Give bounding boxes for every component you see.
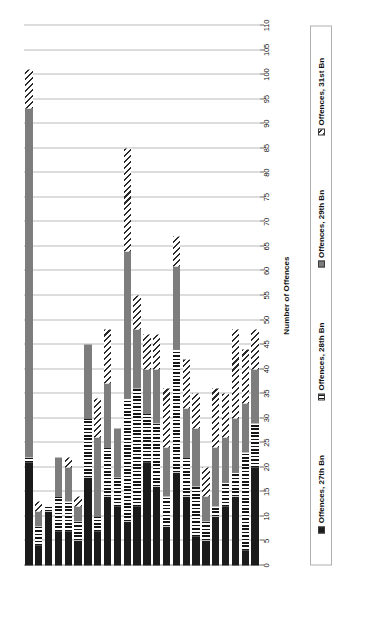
bar-segment [54,531,61,565]
category-axis-labels: Jan. 1917Feb. 1917Mar. 1917Apr. 1917May.… [24,0,260,509]
legend-item[interactable]: Offences, 27th Bn [316,455,325,533]
axis-tick-label: 25 [262,438,271,446]
bar-segment [44,511,51,565]
bar-segment [113,506,120,565]
value-axis-title: Number of Offences [282,25,291,565]
bar-segment [221,506,228,565]
axis-tick-label: 5 [262,538,271,542]
legend-label: Offences, 28th Bn [316,322,325,390]
legend-swatch-icon [317,128,324,135]
bar-segment [64,531,71,565]
axis-tick-label: 20 [262,463,271,471]
chart-legend: Offences, 27th BnOffences, 28th BnOffenc… [310,25,332,565]
bar-segment [94,516,101,531]
axis-tick-label: 95 [262,95,271,103]
axis-tick-label: 65 [262,242,271,250]
axis-tick-label: 90 [262,119,271,127]
bar-segment [94,531,101,565]
offences-stacked-bar-chart: Jan. 1917Feb. 1917Mar. 1917Apr. 1917May.… [18,0,348,621]
bar-segment [35,526,42,546]
axis-tick-label: 80 [262,168,271,176]
bar-segment [241,550,248,565]
axis-tick-label: 50 [262,316,271,324]
legend-swatch-icon [317,260,324,267]
chart-page: Jan. 1917Feb. 1917Mar. 1917Apr. 1917May.… [0,0,365,621]
axis-tick-label: 110 [262,19,271,31]
legend-label: Offences, 27th Bn [316,455,325,523]
bar-segment [133,506,140,565]
bar-segment [212,516,219,565]
legend-item[interactable]: Offences, 28th Bn [316,322,325,400]
axis-tick-label: 105 [262,44,271,56]
axis-tick-label: 55 [262,291,271,299]
axis-tick-label: 60 [262,266,271,274]
bar-segment [74,521,81,541]
legend-swatch-icon [317,526,324,533]
plot-area: Jan. 1917Feb. 1917Mar. 1917Apr. 1917May.… [24,25,260,565]
axis-tick-label: 10 [262,512,271,520]
legend-item[interactable]: Offences, 31st Bn [316,57,325,135]
axis-tick-label: 70 [262,217,271,225]
bar-segment [35,545,42,565]
bar-segment [192,536,199,565]
legend-item[interactable]: Offences, 29th Bn [316,189,325,267]
axis-tick-label: 75 [262,193,271,201]
axis-tick-label: 100 [262,68,271,80]
value-axis-tick-labels: 0510152025303540455055606570758085909510… [262,25,278,565]
rotated-chart-wrapper: Jan. 1917Feb. 1917Mar. 1917Apr. 1917May.… [0,0,365,621]
bar-segment [123,521,130,565]
legend-label: Offences, 29th Bn [316,189,325,257]
axis-tick-label: 85 [262,144,271,152]
bar-segment [202,540,209,565]
axis-tick-label: 30 [262,414,271,422]
bar-segment [162,526,169,565]
legend-label: Offences, 31st Bn [316,57,325,125]
axis-tick-label: 35 [262,389,271,397]
axis-tick-label: 0 [262,563,271,567]
bar-segment [74,540,81,565]
bar-segment [35,511,42,526]
legend-swatch-icon [317,393,324,400]
axis-tick-label: 40 [262,365,271,373]
bar-segment [202,521,209,541]
axis-tick-label: 15 [262,487,271,495]
axis-tick-label: 45 [262,340,271,348]
